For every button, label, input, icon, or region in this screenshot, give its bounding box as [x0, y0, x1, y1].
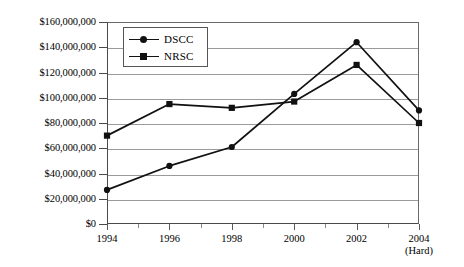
x-axis-minor-tick-mark — [388, 224, 389, 228]
y-axis-tick-label: $140,000,000 — [0, 42, 96, 52]
x-axis-tick-year: 1994 — [97, 233, 118, 244]
x-axis-tick-label: 2000 — [259, 233, 329, 245]
x-axis-tick-label: 1996 — [134, 233, 204, 245]
y-axis-tick-label: $60,000,000 — [0, 143, 96, 153]
x-axis-tick-mark — [232, 224, 233, 230]
legend-label-dscc: DSCC — [164, 34, 194, 45]
x-axis-tick-mark — [294, 224, 295, 230]
x-axis-tick-label: 2004(Hard) — [384, 233, 454, 257]
legend-item-dscc: DSCC — [129, 31, 194, 47]
x-axis-minor-tick-mark — [325, 224, 326, 228]
legend-marker-circle-icon — [129, 34, 159, 44]
gridline — [108, 149, 418, 150]
y-axis-tick-label: $120,000,000 — [0, 68, 96, 78]
y-axis-tick-label: $40,000,000 — [0, 169, 96, 179]
x-axis-tick-label: 1998 — [197, 233, 267, 245]
gridline — [108, 74, 418, 75]
gridline — [108, 124, 418, 125]
x-axis-tick-mark — [169, 224, 170, 230]
x-axis-tick-year: 2004 — [409, 233, 430, 244]
x-axis-tick-mark — [357, 224, 358, 230]
y-axis-tick-label: $100,000,000 — [0, 93, 96, 103]
x-axis-tick-year: 1996 — [159, 233, 180, 244]
x-axis-minor-tick-mark — [138, 224, 139, 228]
x-axis-tick-mark — [419, 224, 420, 230]
legend: DSCC NRSC — [123, 27, 208, 67]
y-axis-tick-label: $0 — [0, 219, 96, 229]
legend-item-nrsc: NRSC — [129, 48, 194, 64]
x-axis-minor-tick-mark — [263, 224, 264, 228]
line-chart: $0$20,000,000$40,000,000$60,000,000$80,0… — [0, 0, 464, 267]
gridline — [108, 175, 418, 176]
legend-marker-square-icon — [129, 51, 159, 61]
x-axis-minor-tick-mark — [201, 224, 202, 228]
x-axis-tick-mark — [107, 224, 108, 230]
x-axis-tick-year: 1998 — [221, 233, 242, 244]
legend-label-nrsc: NRSC — [164, 51, 194, 62]
x-axis-tick-label: 1994 — [72, 233, 142, 245]
x-axis-tick-sublabel: (Hard) — [384, 245, 454, 257]
y-axis-tick-label: $80,000,000 — [0, 118, 96, 128]
y-axis-tick-label: $20,000,000 — [0, 194, 96, 204]
y-axis-tick-label: $160,000,000 — [0, 17, 96, 27]
gridline — [108, 200, 418, 201]
x-axis-tick-label: 2002 — [322, 233, 392, 245]
x-axis-tick-year: 2000 — [284, 233, 305, 244]
gridline — [108, 99, 418, 100]
x-axis-tick-year: 2002 — [346, 233, 367, 244]
